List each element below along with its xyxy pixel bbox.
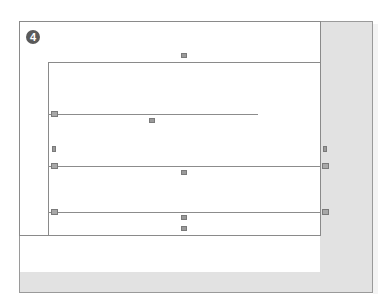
- frame-handle-icon[interactable]: [52, 146, 56, 152]
- frame-handle-icon[interactable]: [323, 146, 327, 152]
- anchor-icon[interactable]: [51, 163, 58, 169]
- step-number-badge: 4: [26, 30, 40, 44]
- frame-handle-icon[interactable]: [181, 215, 187, 220]
- anchor-icon[interactable]: [322, 209, 329, 215]
- anchor-icon[interactable]: [51, 111, 58, 117]
- rule-line-2[interactable]: [48, 166, 320, 167]
- anchor-icon[interactable]: [51, 209, 58, 215]
- page-drop-shadow: [373, 24, 378, 294]
- bottom-shade-strip: [20, 272, 372, 292]
- rule-line-1[interactable]: [48, 114, 258, 115]
- rule-line-3[interactable]: [48, 212, 320, 213]
- inner-frame[interactable]: [48, 62, 321, 236]
- anchor-icon[interactable]: [322, 163, 329, 169]
- frame-handle-icon[interactable]: [181, 53, 187, 58]
- frame-handle-icon[interactable]: [181, 226, 187, 231]
- frame-handle-icon[interactable]: [149, 118, 155, 123]
- right-shade-strip: [320, 22, 372, 292]
- frame-handle-icon[interactable]: [181, 170, 187, 175]
